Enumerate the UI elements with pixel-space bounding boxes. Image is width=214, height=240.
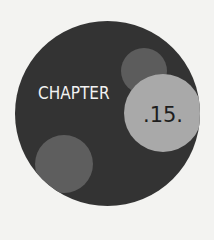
chapter-badge: CHAPTER .15. <box>15 21 200 206</box>
chapter-label: CHAPTER <box>38 83 110 103</box>
decorative-circle-bottom <box>35 135 93 193</box>
chapter-number: .15. <box>124 103 200 127</box>
